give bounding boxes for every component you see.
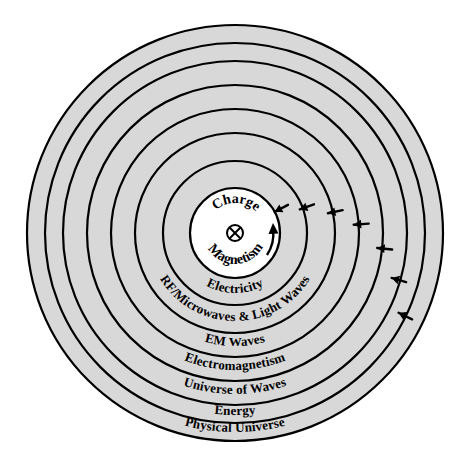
diagram-canvas: ElectricityRF/Microwaves & Light WavesEM… [0, 0, 471, 461]
concentric-rings-diagram: ElectricityRF/Microwaves & Light WavesEM… [0, 0, 471, 461]
ring-label-energy: Energy [214, 402, 257, 418]
